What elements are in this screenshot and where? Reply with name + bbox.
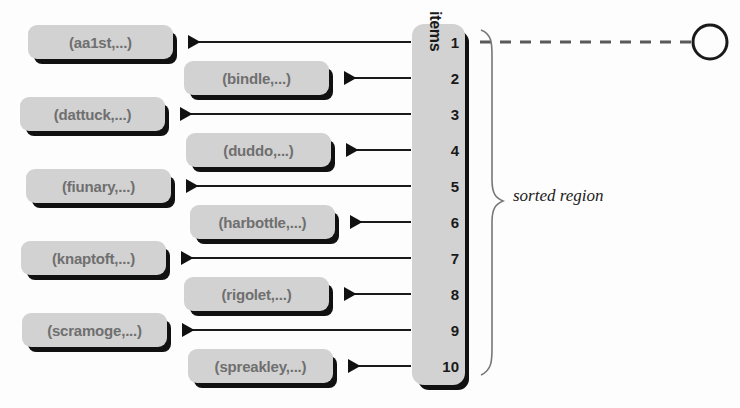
record-label: (fiunary,...): [62, 178, 135, 195]
slot-number: 6: [429, 215, 459, 230]
record-box[interactable]: (harbottle,...): [190, 205, 335, 239]
record-box[interactable]: (aa1st,...): [28, 25, 173, 59]
record-box[interactable]: (bindle,...): [184, 61, 329, 95]
slot-number: 1: [429, 35, 459, 50]
record-label: (bindle,...): [222, 70, 290, 87]
sorted-region-label: sorted region: [513, 186, 604, 206]
slot-number: 3: [429, 107, 459, 122]
record-label: (dattuck,...): [54, 106, 131, 123]
record-label: (rigolet,...): [222, 286, 292, 303]
slot-number: 8: [429, 287, 459, 302]
record-box[interactable]: (scramoge,...): [22, 313, 167, 347]
record-box[interactable]: (rigolet,...): [184, 277, 329, 311]
record-box[interactable]: (knaptoft,...): [21, 241, 166, 275]
record-label: (aa1st,...): [69, 34, 132, 51]
record-label: (scramoge,...): [47, 322, 142, 339]
record-box[interactable]: (duddo,...): [186, 133, 331, 167]
sorted-region-brace: [481, 30, 503, 375]
slot-number: 5: [429, 179, 459, 194]
slot-number: 10: [429, 359, 459, 374]
slot-number: 2: [429, 71, 459, 86]
record-label: (spreakley,...): [215, 358, 307, 375]
diagram-canvas: (aa1st,...) (dattuck,...) (fiunary,...) …: [0, 0, 740, 408]
slot-number: 9: [429, 323, 459, 338]
record-box[interactable]: (fiunary,...): [26, 169, 171, 203]
record-box[interactable]: (dattuck,...): [20, 97, 165, 131]
record-label: (duddo,...): [223, 142, 293, 159]
record-label: (harbottle,...): [219, 214, 307, 231]
slot-number: 4: [429, 143, 459, 158]
empty-circle-icon: [693, 25, 727, 59]
record-label: (knaptoft,...): [52, 250, 135, 267]
record-box[interactable]: (spreakley,...): [188, 349, 333, 383]
slot-number: 7: [429, 251, 459, 266]
